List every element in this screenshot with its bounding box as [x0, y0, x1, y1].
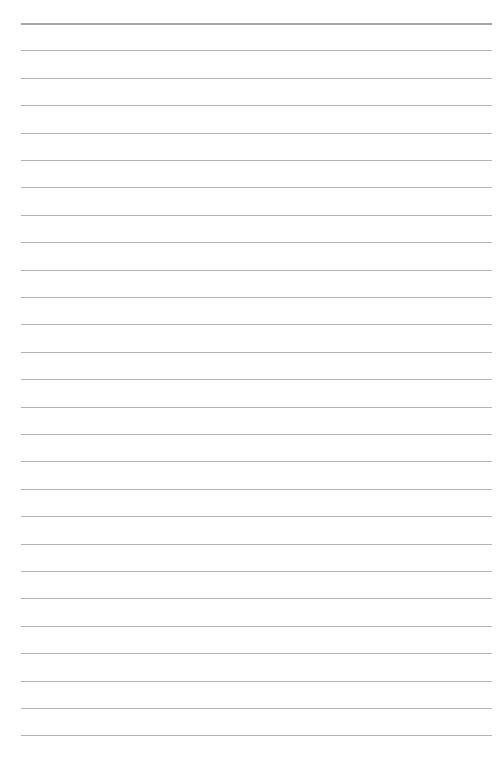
rule-line: [21, 187, 492, 188]
rule-line: [21, 352, 492, 353]
rule-line: [21, 78, 492, 79]
rule-line: [21, 571, 492, 572]
rule-line: [21, 105, 492, 106]
rule-line: [21, 489, 492, 490]
rule-line: [21, 598, 492, 599]
ruled-page: [0, 0, 504, 779]
rule-line: [21, 324, 492, 325]
rule-line: [21, 215, 492, 216]
rule-line: [21, 50, 492, 51]
rule-line: [21, 379, 492, 380]
rule-line: [21, 407, 492, 408]
rule-line: [21, 708, 492, 709]
rule-line: [21, 242, 492, 243]
rule-line: [21, 544, 492, 545]
rule-line: [21, 681, 492, 682]
rule-line: [21, 434, 492, 435]
rule-line: [21, 735, 492, 736]
rule-line: [21, 626, 492, 627]
top-rule-line: [21, 23, 492, 25]
rule-line: [21, 270, 492, 271]
rule-line: [21, 133, 492, 134]
rule-line: [21, 516, 492, 517]
rule-line: [21, 461, 492, 462]
rule-line: [21, 297, 492, 298]
rule-line: [21, 160, 492, 161]
rule-line: [21, 653, 492, 654]
